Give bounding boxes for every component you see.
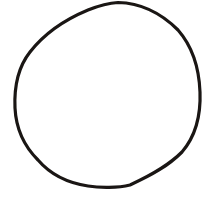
circle-outline: [15, 3, 200, 188]
drawing-canvas: [0, 0, 214, 206]
hand-drawn-circle: [0, 0, 214, 206]
